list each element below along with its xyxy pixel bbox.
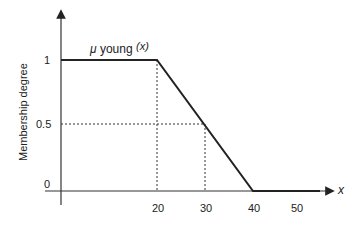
membership-curve bbox=[61, 60, 320, 191]
y-axis-label: Membership degree bbox=[17, 71, 29, 161]
x-axis-label: x bbox=[338, 184, 344, 196]
membership-chart: μ young (x) Membership degree 1 0.5 0 20… bbox=[0, 0, 358, 227]
xtick-30: 30 bbox=[200, 203, 212, 214]
xtick-50: 50 bbox=[291, 203, 303, 214]
series-label: μ young (x) bbox=[90, 41, 149, 55]
xtick-20: 20 bbox=[152, 203, 164, 214]
xtick-40: 40 bbox=[248, 203, 260, 214]
ytick-1: 1 bbox=[44, 55, 50, 66]
ytick-05: 0.5 bbox=[36, 119, 51, 130]
ytick-0: 0 bbox=[44, 179, 50, 190]
chart-plot bbox=[0, 0, 358, 227]
